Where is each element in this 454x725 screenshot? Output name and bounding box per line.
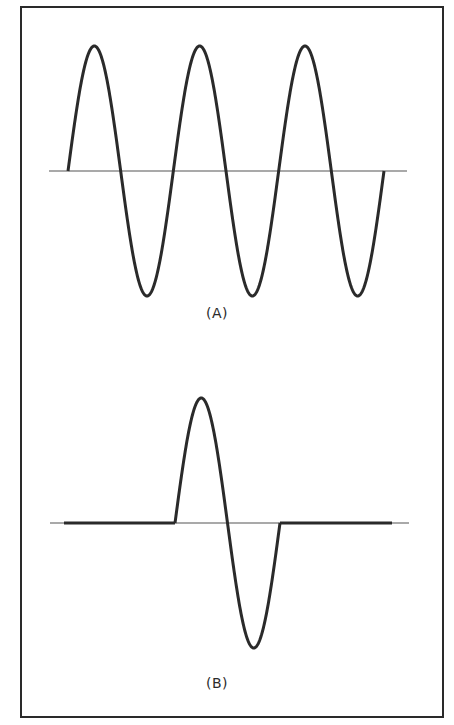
panel-b (50, 398, 409, 648)
panel-a (49, 46, 407, 296)
panel-a-label: (A) (206, 305, 228, 321)
waveform-diagram (0, 0, 454, 725)
panel-b-label: (B) (206, 675, 228, 691)
